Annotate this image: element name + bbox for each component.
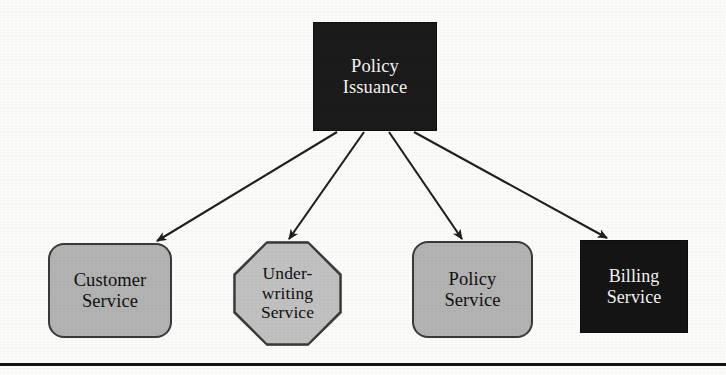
node-policy-issuance-label: Policy Issuance: [343, 56, 408, 97]
node-policy-service[interactable]: Policy Service: [412, 241, 533, 338]
node-customer-service-label: Customer Service: [74, 270, 147, 311]
bottom-divider: [0, 363, 726, 366]
edge-policy-issuance-to-customer-service: [157, 132, 337, 241]
diagram-canvas: Policy Issuance Customer Service Under- …: [0, 0, 726, 375]
node-billing-service[interactable]: Billing Service: [580, 240, 688, 333]
edge-policy-issuance-to-policy-service: [389, 132, 462, 239]
node-underwriting-service-label: Under- writing Service: [261, 264, 314, 323]
node-billing-service-label: Billing Service: [607, 266, 662, 306]
edge-policy-issuance-to-billing-service: [414, 132, 607, 238]
node-policy-issuance[interactable]: Policy Issuance: [313, 22, 437, 131]
edge-policy-issuance-to-underwriting-service: [289, 132, 364, 239]
node-customer-service[interactable]: Customer Service: [48, 243, 172, 338]
node-policy-service-label: Policy Service: [444, 269, 500, 310]
